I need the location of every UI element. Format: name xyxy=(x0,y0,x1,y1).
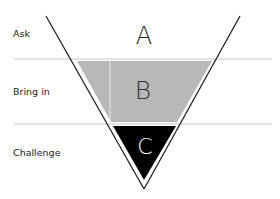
letter-c: C xyxy=(125,134,165,159)
letter-b: B xyxy=(123,76,163,105)
row-label-bring-in: Bring in xyxy=(13,86,50,97)
row-label-challenge: Challenge xyxy=(13,147,61,158)
funnel-diagram: Ask Bring in Challenge A B C xyxy=(0,0,280,199)
letter-a: A xyxy=(124,22,164,50)
row-label-ask: Ask xyxy=(13,28,30,39)
